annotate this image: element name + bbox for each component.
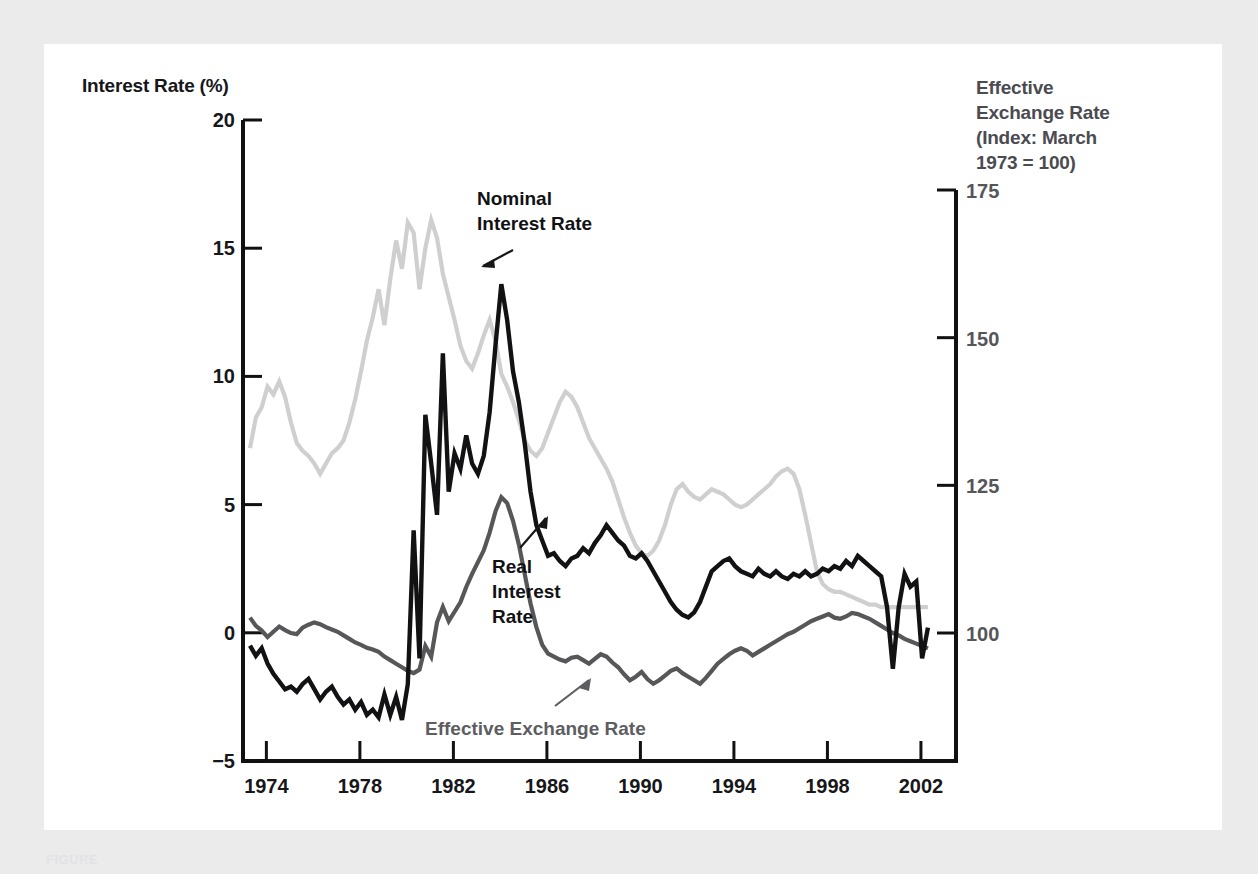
series-lines — [250, 220, 928, 720]
annotation-effective-arrowhead — [579, 678, 591, 691]
annotation-nominal-line-2: Interest Rate — [477, 213, 592, 234]
x-tick-label: 1990 — [618, 775, 663, 797]
left-tick-label: 0 — [224, 622, 235, 644]
axis-spines — [241, 120, 958, 763]
annotation-effective-arrow — [555, 680, 589, 706]
annotation-nominal-line-1: Nominal — [477, 188, 552, 209]
annotation-nominal-interest-rate: Nominal Interest Rate — [477, 188, 592, 268]
right-axis-ticks — [937, 190, 956, 633]
x-axis-ticks — [266, 741, 921, 761]
left-tick-label: 20 — [213, 109, 235, 131]
annotation-real-line-1: Real — [492, 556, 532, 577]
right-tick-label: 100 — [966, 623, 999, 645]
chart-canvas: Interest Rate (%) Effective Exchange Rat… — [0, 0, 1258, 874]
right-axis-tick-labels: 175150125100 — [966, 180, 999, 645]
right-tick-label: 125 — [966, 475, 999, 497]
right-axis-title-line-1: Effective — [976, 77, 1053, 98]
right-tick-label: 150 — [966, 328, 999, 350]
left-axis-tick-labels: 20151050−5 — [212, 109, 235, 772]
right-axis-title-line-3: (Index: March — [976, 127, 1097, 148]
x-tick-label: 1998 — [805, 775, 850, 797]
x-tick-label: 1978 — [338, 775, 383, 797]
x-tick-label: 2002 — [899, 775, 944, 797]
annotation-real-line-2: Interest — [492, 581, 561, 602]
annotation-effective-exchange-rate: Effective Exchange Rate — [425, 678, 646, 739]
x-tick-label: 1974 — [244, 775, 289, 797]
left-tick-label: 5 — [224, 494, 235, 516]
series-line-effective-exchange-rate — [250, 497, 928, 684]
right-axis-title-line-4: 1973 = 100) — [976, 152, 1076, 173]
annotation-real-line-3: Rate — [492, 606, 533, 627]
right-axis-title-line-2: Exchange Rate — [976, 102, 1110, 123]
left-tick-label: 15 — [213, 237, 235, 259]
left-tick-label: −5 — [212, 750, 235, 772]
annotation-real-interest-rate: Real Interest Rate — [492, 516, 561, 627]
annotation-effective-label: Effective Exchange Rate — [425, 718, 646, 739]
annotation-nominal-arrowhead — [481, 259, 495, 268]
x-tick-label: 1994 — [712, 775, 757, 797]
x-tick-label: 1982 — [431, 775, 476, 797]
series-line-real-interest-rate — [250, 284, 928, 720]
x-tick-label: 1986 — [525, 775, 570, 797]
right-tick-label: 175 — [966, 180, 999, 202]
x-axis-tick-labels: 19741978198219861990199419982002 — [244, 775, 943, 797]
left-tick-label: 10 — [213, 365, 235, 387]
left-axis-title: Interest Rate (%) — [82, 75, 229, 96]
figure-frame: FIGURE Interest Rate (%) Effective Excha… — [0, 0, 1258, 874]
annotation-real-arrowhead — [537, 516, 548, 529]
